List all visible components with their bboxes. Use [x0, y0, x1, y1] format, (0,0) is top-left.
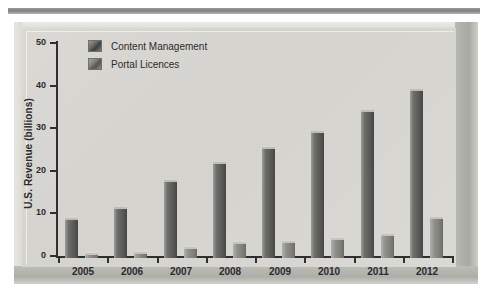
y-tick-label-wrap-50: 50 [24, 37, 46, 47]
x-tick-end [452, 256, 454, 263]
bar-face [85, 251, 98, 258]
bar-portal-licences-2010 [331, 236, 344, 256]
x-tick-label-2009: 2009 [258, 266, 302, 277]
y-tick-label-wrap-20: 20 [24, 165, 46, 175]
bar-content-management-2005 [65, 216, 78, 256]
chart-figure: U.S. Revenue (billions) 01020304050 2005… [0, 0, 487, 295]
x-tick-2012 [403, 256, 405, 263]
y-axis-line [56, 41, 58, 258]
y-tick-50 [50, 42, 58, 44]
x-tick-label-2008: 2008 [208, 266, 252, 277]
bar-portal-licences-2005 [85, 251, 98, 256]
legend-swatch-content-management-icon [88, 40, 102, 52]
bar-portal-licences-2008 [233, 240, 246, 256]
bar-content-management-2010 [311, 129, 324, 256]
y-tick-20 [50, 170, 58, 172]
x-tick-label-2011: 2011 [356, 266, 400, 277]
bar-face [65, 216, 78, 258]
legend-label-content-management: Content Management [111, 41, 207, 52]
x-tick-2006 [107, 256, 109, 263]
bar-face [262, 145, 275, 258]
legend-swatch-portal-licences-icon [88, 58, 102, 70]
legend-label-portal-licences: Portal Licences [111, 59, 179, 70]
y-tick-label-40: 40 [26, 80, 46, 90]
y-tick-label-30: 30 [26, 122, 46, 132]
x-tick-label-2006: 2006 [110, 266, 154, 277]
y-tick-40 [50, 85, 58, 87]
legend-item-portal-licences: Portal Licences [88, 55, 207, 73]
bar-content-management-2009 [262, 145, 275, 256]
bar-face [381, 232, 394, 258]
y-tick-label-wrap-10: 10 [24, 207, 46, 217]
bar-face [282, 239, 295, 258]
y-tick-label-50: 50 [26, 37, 46, 47]
bar-face [331, 236, 344, 258]
bar-face [361, 108, 374, 258]
bar-portal-licences-2012 [430, 215, 443, 256]
bar-portal-licences-2009 [282, 239, 295, 256]
x-tick-label-2005: 2005 [61, 266, 105, 277]
x-tick-label-2010: 2010 [307, 266, 351, 277]
bar-face [213, 160, 226, 258]
plot-area: U.S. Revenue (billions) 01020304050 2005… [0, 0, 487, 295]
y-tick-30 [50, 127, 58, 129]
bar-face [233, 240, 246, 258]
bar-face [114, 205, 127, 258]
x-tick-2010 [304, 256, 306, 263]
x-tick-2005 [58, 256, 60, 263]
y-tick-label-0: 0 [26, 250, 46, 260]
bar-face [164, 178, 177, 258]
bar-content-management-2007 [164, 178, 177, 256]
legend-item-content-management: Content Management [88, 37, 207, 55]
y-tick-label-10: 10 [26, 207, 46, 217]
bar-content-management-2011 [361, 108, 374, 256]
y-tick-10 [50, 212, 58, 214]
bar-face [134, 250, 147, 258]
x-tick-2009 [255, 256, 257, 263]
bar-content-management-2006 [114, 205, 127, 256]
bar-face [311, 129, 324, 258]
bar-portal-licences-2007 [184, 245, 197, 256]
bar-content-management-2008 [213, 160, 226, 256]
y-tick-0 [50, 255, 58, 257]
chart-legend: Content Management Portal Licences [88, 37, 207, 73]
y-tick-label-20: 20 [26, 165, 46, 175]
bar-portal-licences-2006 [134, 250, 147, 256]
bar-portal-licences-2011 [381, 232, 394, 256]
x-tick-2007 [157, 256, 159, 263]
x-tick-label-2007: 2007 [159, 266, 203, 277]
x-tick-label-2012: 2012 [405, 266, 449, 277]
bar-face [184, 245, 197, 258]
bar-face [430, 215, 443, 258]
bar-face [410, 87, 423, 258]
y-tick-label-wrap-40: 40 [24, 80, 46, 90]
x-tick-2011 [354, 256, 356, 263]
y-tick-label-wrap-0: 0 [24, 250, 46, 260]
x-tick-2008 [206, 256, 208, 263]
y-tick-label-wrap-30: 30 [24, 122, 46, 132]
bar-content-management-2012 [410, 87, 423, 256]
